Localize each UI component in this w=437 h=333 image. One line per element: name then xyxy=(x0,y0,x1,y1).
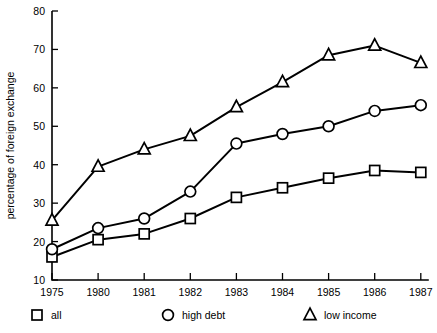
data-point-marker xyxy=(230,100,242,111)
y-tick-label: 80 xyxy=(33,5,45,17)
series-all xyxy=(47,165,426,261)
data-point-marker xyxy=(369,39,381,50)
chart-legend: allhigh debtlow income xyxy=(32,308,377,321)
x-tick-label: 1975 xyxy=(40,286,64,298)
series-line xyxy=(52,105,421,249)
data-point-marker xyxy=(139,213,150,224)
data-point-marker xyxy=(415,100,426,111)
data-point-marker xyxy=(93,235,103,245)
legend-item-all[interactable]: all xyxy=(32,309,62,321)
x-tick-label: 1981 xyxy=(133,286,157,298)
x-tick-label: 1983 xyxy=(225,286,249,298)
x-tick-label: 1985 xyxy=(317,286,341,298)
data-point-marker xyxy=(93,223,104,234)
x-tick-label: 1986 xyxy=(363,286,387,298)
data-point-marker xyxy=(278,183,288,193)
y-tick-label: 10 xyxy=(33,274,45,286)
x-tick-label: 1982 xyxy=(179,286,203,298)
data-point-marker xyxy=(231,138,242,149)
y-tick-label: 20 xyxy=(33,236,45,248)
legend-label-text: all xyxy=(51,309,62,321)
y-axis-title: percentage of foreign exchange xyxy=(4,71,16,219)
data-point-marker xyxy=(370,165,380,175)
series-line xyxy=(52,170,421,256)
legend-marker-square xyxy=(32,310,42,320)
data-point-marker xyxy=(416,167,426,177)
data-point-marker xyxy=(323,121,334,132)
x-axis-ticks: 197519801981198219831984198519861987 xyxy=(40,273,432,298)
legend-marker-circle xyxy=(163,310,174,321)
data-point-marker xyxy=(277,129,288,140)
data-point-marker xyxy=(185,186,196,197)
y-tick-label: 40 xyxy=(33,159,45,171)
legend-label-text: high debt xyxy=(182,309,225,321)
data-point-marker xyxy=(277,75,289,86)
y-tick-label: 60 xyxy=(33,82,45,94)
series-high-debt xyxy=(47,100,427,255)
data-point-marker xyxy=(369,106,380,117)
data-point-marker xyxy=(139,229,149,239)
x-tick-label: 1987 xyxy=(409,286,433,298)
chart-container: 1020304050607080 19751980198119821983198… xyxy=(0,0,437,333)
data-point-marker xyxy=(47,244,58,255)
legend-item-low-income[interactable]: low income xyxy=(304,308,377,321)
data-point-marker xyxy=(185,214,195,224)
data-point-marker xyxy=(231,192,241,202)
legend-marker-triangle xyxy=(304,308,316,319)
legend-label-text: low income xyxy=(324,309,377,321)
y-tick-label: 70 xyxy=(33,43,45,55)
data-point-marker xyxy=(184,129,196,140)
data-point-marker xyxy=(324,173,334,183)
x-tick-label: 1980 xyxy=(86,286,110,298)
line-chart: 1020304050607080 19751980198119821983198… xyxy=(0,0,437,333)
legend-item-high-debt[interactable]: high debt xyxy=(163,309,226,321)
y-tick-label: 50 xyxy=(33,120,45,132)
y-tick-label: 30 xyxy=(33,197,45,209)
chart-series xyxy=(46,39,427,262)
x-tick-label: 1984 xyxy=(271,286,295,298)
y-axis-title-text: percentage of foreign exchange xyxy=(4,71,16,219)
